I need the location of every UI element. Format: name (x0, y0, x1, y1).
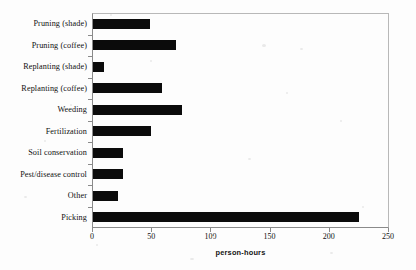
bar (93, 126, 151, 136)
y-axis-tick (88, 78, 92, 79)
bar (93, 62, 104, 72)
bar-row: Pruning (coffee) (0, 35, 416, 57)
chart-screenshot: Pruning (shade)Pruning (coffee)Replantin… (0, 0, 416, 270)
bar-row: Other (0, 185, 416, 207)
bar-row: Pruning (shade) (0, 13, 416, 35)
x-axis-tick-label: 0 (72, 232, 112, 241)
bar-row: Picking (0, 207, 416, 229)
y-axis-tick (88, 35, 92, 36)
bar-row: Soil conservation (0, 142, 416, 164)
bar-row: Pest/disease control (0, 164, 416, 186)
bar (93, 83, 162, 93)
x-axis-tick-label: 50 (131, 232, 171, 241)
bar-row: Replanting (coffee) (0, 78, 416, 100)
y-axis-tick (88, 121, 92, 122)
y-axis-tick (88, 56, 92, 57)
category-label: Weeding (0, 105, 87, 114)
bar (93, 191, 118, 201)
bar (93, 40, 176, 50)
bar (93, 169, 123, 179)
x-axis-tick-label: 100 (190, 232, 230, 241)
bar-row: Fertilization (0, 121, 416, 143)
category-label: Pest/disease control (0, 170, 87, 179)
bar (93, 105, 182, 115)
category-label: Pruning (coffee) (0, 41, 87, 50)
y-axis-tick (88, 207, 92, 208)
x-axis-title: person-hours (92, 248, 389, 257)
x-axis-tick-label: 200 (309, 232, 349, 241)
bar (93, 212, 359, 222)
category-label: Replanting (coffee) (0, 84, 87, 93)
bar-row: Weeding (0, 99, 416, 121)
y-axis-tick (88, 164, 92, 165)
x-axis: 050100150200250 (0, 228, 416, 248)
x-axis-tick-label: 150 (250, 232, 290, 241)
category-label: Replanting (shade) (0, 62, 87, 71)
x-axis-tick-label: 250 (368, 232, 408, 241)
category-label: Soil conservation (0, 148, 87, 157)
bar-row: Replanting (shade) (0, 56, 416, 78)
scan-artifact (190, 258, 194, 260)
y-axis-tick (88, 185, 92, 186)
bar-rows: Pruning (shade)Pruning (coffee)Replantin… (0, 13, 416, 228)
bar (93, 148, 123, 158)
category-label: Fertilization (0, 127, 87, 136)
category-label: Picking (0, 213, 87, 222)
category-label: Other (0, 191, 87, 200)
y-axis-tick (88, 142, 92, 143)
category-label: Pruning (shade) (0, 19, 87, 28)
y-axis-tick (88, 99, 92, 100)
bar (93, 19, 150, 29)
